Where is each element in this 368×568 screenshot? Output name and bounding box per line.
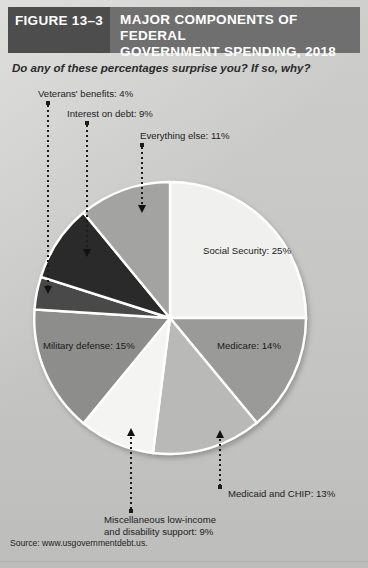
slice-label-medicare: Medicare: 14% xyxy=(217,340,281,351)
callout-label-miscellaneous-support: Miscellaneous low-income and disability … xyxy=(104,514,216,537)
leader-dotted-line xyxy=(130,437,132,509)
callout-label-medicaid-chip: Medicaid and CHIP: 13% xyxy=(228,488,335,500)
callout-label-interest-on-debt: Interest on debt: 9% xyxy=(67,108,153,120)
bottom-divider xyxy=(0,561,368,562)
pie-slices-group xyxy=(34,182,306,454)
pie-chart xyxy=(0,0,368,568)
leader-arrowhead xyxy=(138,205,146,213)
leader-dotted-line xyxy=(219,439,221,485)
leader-dotted-line xyxy=(47,105,49,286)
leader-arrowhead xyxy=(127,428,135,436)
slice-label-military-defense: Military defense: 15% xyxy=(43,340,135,351)
figure-page: FIGURE 13–3 MAJOR COMPONENTS OF FEDERAL … xyxy=(0,0,368,568)
leader-arrowhead xyxy=(44,286,52,294)
slice-label-social-security: Social Security: 25% xyxy=(203,245,291,256)
pie-chart-svg xyxy=(0,0,368,568)
leader-dot xyxy=(129,509,133,513)
leader-dot xyxy=(218,485,222,489)
callout-label-veterans-benefits: Veterans' benefits: 4% xyxy=(38,88,133,100)
source-note: Source: www.usgovernmentdebt.us. xyxy=(10,538,148,548)
leader-dotted-line xyxy=(86,125,88,249)
leader-dotted-line xyxy=(141,147,143,205)
callout-label-everything-else: Everything else: 11% xyxy=(140,130,229,142)
leader-arrowhead xyxy=(216,430,224,438)
leader-arrowhead xyxy=(83,249,91,257)
